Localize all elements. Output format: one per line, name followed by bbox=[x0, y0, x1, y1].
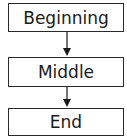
node-label: Beginning bbox=[23, 8, 108, 28]
node-middle: Middle bbox=[8, 57, 124, 87]
arrow-down-icon bbox=[61, 87, 73, 108]
node-label: Middle bbox=[38, 62, 94, 82]
node-label: End bbox=[50, 112, 82, 132]
arrow-down-icon bbox=[61, 32, 73, 57]
node-beginning: Beginning bbox=[8, 3, 124, 32]
node-end: End bbox=[8, 108, 124, 136]
